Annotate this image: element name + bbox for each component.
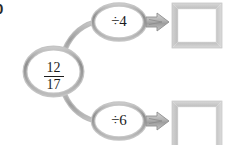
input-fraction: 12 17: [34, 61, 74, 92]
fraction-denominator: 17: [34, 78, 74, 92]
fraction-numerator: 12: [34, 61, 74, 75]
answer-box-lower[interactable]: [172, 101, 222, 145]
operation-label-lower: ÷6: [99, 113, 139, 128]
operation-label-upper: ÷4: [99, 14, 139, 29]
answer-box-upper[interactable]: [172, 3, 222, 48]
arrow-upper: [146, 13, 169, 31]
diagram-canvas: 0: [0, 0, 226, 145]
arrow-lower: [146, 112, 169, 130]
